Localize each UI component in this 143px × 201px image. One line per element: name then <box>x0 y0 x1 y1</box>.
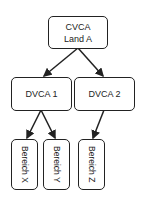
node-bereich-x-label: Bereich X <box>19 146 31 183</box>
node-bereich-y-label: Bereich Y <box>51 146 63 183</box>
node-bereich-x: Bereich X <box>11 139 38 190</box>
edge-dvca2-bz <box>93 110 104 138</box>
node-bereich-y: Bereich Y <box>43 139 70 190</box>
node-dvca-2: DVCA 2 <box>74 77 135 111</box>
node-dvca-1: DVCA 1 <box>11 77 72 111</box>
edge-dvca1-by <box>41 110 55 138</box>
node-cvca-land-a: CVCA Land A <box>48 16 108 49</box>
edge-root-dvca2 <box>78 48 103 76</box>
node-bereich-z-label: Bereich Z <box>86 146 98 182</box>
node-dvca-2-label: DVCA 2 <box>88 88 120 100</box>
node-cvca-line1: CVCA <box>65 21 90 33</box>
edge-root-dvca1 <box>44 48 78 76</box>
node-bereich-z: Bereich Z <box>78 139 105 190</box>
node-cvca-line2: Land A <box>64 33 92 45</box>
edge-dvca1-bx <box>27 110 41 138</box>
node-dvca-1-label: DVCA 1 <box>25 88 57 100</box>
